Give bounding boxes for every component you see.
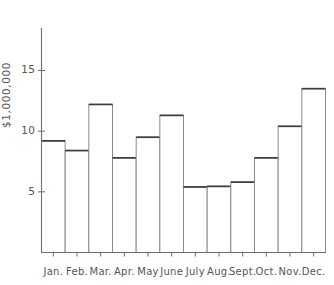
bar [113,158,137,253]
bars-group [42,89,326,253]
plot-area [0,0,334,285]
bar [42,141,66,253]
bar [255,158,279,253]
bar [89,104,113,252]
bar-chart: $1,000,000 51015 Jan.Feb.Mar.Apr.MayJune… [0,0,334,285]
bar [302,89,326,253]
bar [65,151,89,253]
bar [160,115,184,252]
bar [184,187,208,253]
bar [278,126,302,252]
bar [231,182,255,252]
bar [207,186,231,252]
bar [136,137,160,252]
